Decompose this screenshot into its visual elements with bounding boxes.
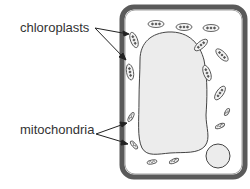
nucleus (206, 144, 230, 168)
mitochondria-label: mitochondria (20, 122, 95, 137)
chloroplast (203, 25, 219, 32)
chloroplast (176, 24, 192, 31)
chloroplast (148, 21, 164, 28)
plant-cell-diagram: chloroplasts mitochondria (0, 0, 250, 189)
chloroplasts-label: chloroplasts (20, 20, 90, 35)
